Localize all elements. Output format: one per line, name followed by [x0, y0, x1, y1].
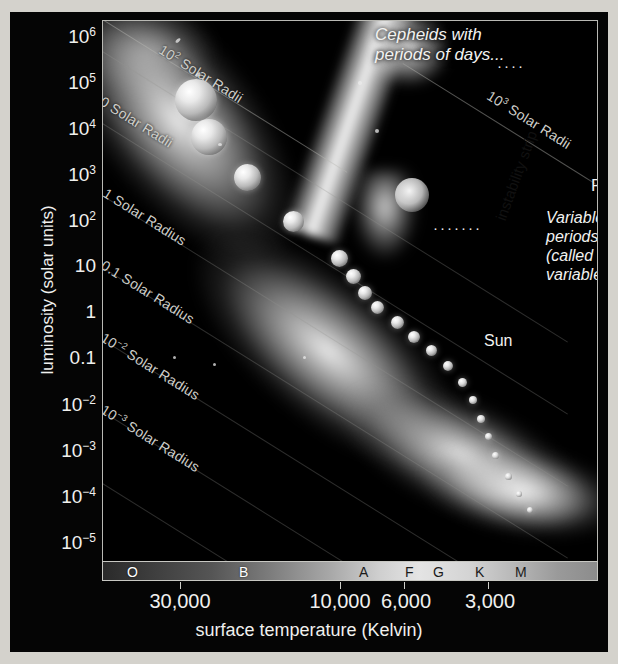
- cepheids-line-1: Cepheids with: [375, 25, 482, 44]
- leader-dots-cepheids: ····: [497, 57, 525, 74]
- star-marker: [371, 301, 384, 314]
- y-tick-1e4: 104: [68, 117, 96, 140]
- radius-label-1e-3: 10−3 Solar Radius: [102, 401, 203, 475]
- star-speck: [213, 363, 216, 366]
- star-marker: [175, 79, 217, 121]
- annotation-instability-strip: instability strip: [492, 128, 540, 222]
- star-marker: [485, 433, 492, 440]
- variable-line-2: periods of hours: [546, 228, 598, 245]
- star-marker: [458, 378, 467, 387]
- x-tick-10000: 10,000: [309, 590, 370, 613]
- y-tick-10: 10: [75, 255, 96, 277]
- x-tickmark: [340, 582, 341, 589]
- y-tick-1e-5: 10−5: [61, 531, 96, 554]
- annotation-sun: Sun: [484, 332, 512, 351]
- y-axis-title: luminosity (solar units): [38, 160, 58, 420]
- x-tick-30000: 30,000: [149, 590, 210, 613]
- figure-root: 106 105 104 103 102 10 1 0.1 10−2 10−3 1…: [0, 0, 618, 664]
- plot-area: 102 Solar Radii 10 Solar Radii 103 Solar…: [102, 20, 598, 562]
- spectral-class-bar: O B A F G K M: [102, 561, 598, 581]
- spectral-class-O: O: [127, 563, 138, 581]
- x-tick-6000: 6,000: [381, 590, 431, 613]
- star-marker: [443, 361, 453, 371]
- y-tick-1e-4: 10−4: [61, 485, 96, 508]
- annotation-variable-stars: Variable stars withperiods of hours(call…: [546, 209, 598, 285]
- star-marker: [492, 452, 499, 459]
- spectral-class-B: B: [239, 563, 248, 581]
- annotation-polaris: Polaris: [591, 176, 598, 196]
- star-marker-sun: [408, 331, 420, 343]
- star-speck: [375, 129, 379, 133]
- spectral-class-G: G: [433, 563, 444, 581]
- hr-diagram-figure: 106 105 104 103 102 10 1 0.1 10−2 10−3 1…: [10, 12, 608, 652]
- y-tick-1e6: 106: [68, 25, 96, 48]
- y-tick-1e5: 105: [68, 71, 96, 94]
- star-speck: [218, 143, 222, 146]
- star-marker: [477, 415, 485, 423]
- x-tickmark: [404, 582, 405, 589]
- radius-label-1e-2: 10−2 Solar Radius: [102, 329, 203, 403]
- spectral-class-F: F: [405, 563, 414, 581]
- star-marker: [191, 119, 227, 155]
- x-tickmark: [180, 582, 181, 589]
- star-marker: [234, 164, 261, 191]
- leader-dots-variable: ·······: [433, 219, 482, 236]
- variable-line-1: Variable stars with: [546, 209, 598, 226]
- y-tick-1e-2: 10−2: [61, 393, 96, 416]
- y-tick-1e-3: 10−3: [61, 439, 96, 462]
- y-tick-1e2: 102: [68, 209, 96, 232]
- y-tick-0p1: 0.1: [70, 347, 96, 369]
- x-axis-title: surface temperature (Kelvin): [10, 620, 608, 641]
- star-speck: [173, 356, 176, 359]
- polaris-star-marker: [395, 178, 429, 212]
- star-marker: [331, 250, 348, 267]
- annotation-cepheids: Cepheids withperiods of days...: [375, 25, 504, 65]
- cepheids-line-2: periods of days...: [375, 45, 504, 64]
- star-marker: [391, 316, 404, 329]
- spectral-class-M: M: [515, 563, 527, 581]
- star-marker: [469, 396, 477, 404]
- star-marker: [346, 269, 361, 284]
- star-marker: [426, 345, 437, 356]
- x-tick-3000: 3,000: [465, 590, 515, 613]
- star-marker: [527, 507, 533, 513]
- star-marker: [505, 473, 512, 480]
- star-speck: [303, 356, 306, 359]
- star-marker: [516, 491, 522, 497]
- variable-line-3-pre: (called: [546, 247, 598, 264]
- star-marker: [283, 211, 304, 232]
- star-speck: [358, 81, 362, 85]
- x-tickmark: [488, 582, 489, 589]
- spectral-class-K: K: [475, 563, 484, 581]
- y-tick-1e3: 103: [68, 163, 96, 186]
- y-tick-1: 1: [85, 301, 96, 323]
- star-marker: [358, 286, 372, 300]
- variable-line-4: variables).: [546, 266, 598, 283]
- spectral-class-A: A: [359, 563, 368, 581]
